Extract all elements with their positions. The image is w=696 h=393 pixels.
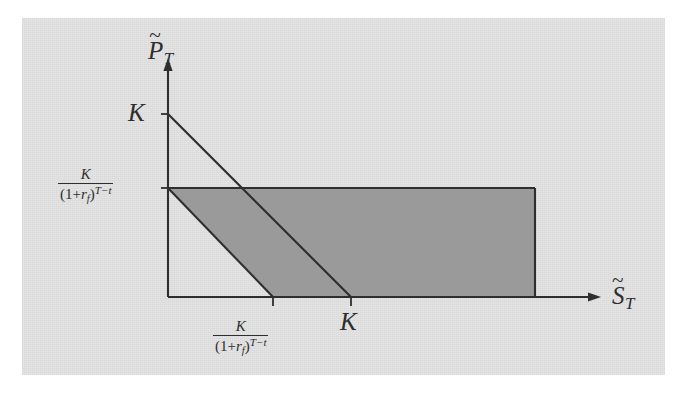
x-den-exponent: T−t xyxy=(250,336,267,348)
y-axis-label-subscript: T xyxy=(163,49,173,68)
y-tick-fraction: K (1+rf)T−t xyxy=(58,166,113,204)
figure-root: ~ P T K K (1+rf)T−t ~ S T K (1+rf)T−t K xyxy=(0,0,696,393)
x-axis-arrowhead xyxy=(588,292,601,301)
x-tick-fraction: K (1+rf)T−t xyxy=(213,318,268,356)
arbitrage-bound-region xyxy=(168,188,535,297)
y-tick-label-K: K xyxy=(128,100,145,125)
x-axis-label-subscript: T xyxy=(625,294,635,313)
y-tick-fraction-numerator: K xyxy=(58,166,113,183)
x-den-open: (1+ xyxy=(215,338,236,354)
x-axis-tilde-accent: ~ xyxy=(612,270,624,291)
y-tick-fraction-denominator: (1+rf)T−t xyxy=(58,183,113,204)
y-tick-label-K-discounted: K (1+rf)T−t xyxy=(58,166,113,204)
x-tick-label-K-discounted: K (1+rf)T−t xyxy=(213,318,268,356)
x-tick-fraction-numerator: K xyxy=(213,318,268,335)
y-den-exponent: T−t xyxy=(95,184,112,196)
y-axis-label: ~ P T xyxy=(148,38,173,67)
y-den-open: (1+ xyxy=(60,186,81,202)
x-tick-fraction-denominator: (1+rf)T−t xyxy=(213,335,268,356)
x-axis-label: ~ S T xyxy=(612,283,634,312)
x-tick-label-K: K xyxy=(340,309,357,334)
y-axis-tilde-accent: ~ xyxy=(149,25,161,46)
